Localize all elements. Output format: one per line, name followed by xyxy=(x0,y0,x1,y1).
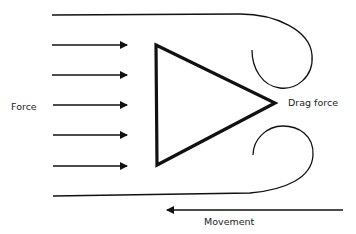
top-flow-line xyxy=(52,14,312,88)
force-label: Force xyxy=(11,101,37,112)
drag-force-diagram: Force Drag force Movement xyxy=(0,0,356,234)
bottom-flow-line xyxy=(53,126,313,196)
force-arrows xyxy=(52,45,127,166)
drag-force-label: Drag force xyxy=(288,97,338,108)
movement-label: Movement xyxy=(204,216,255,227)
triangle-object xyxy=(156,45,275,165)
